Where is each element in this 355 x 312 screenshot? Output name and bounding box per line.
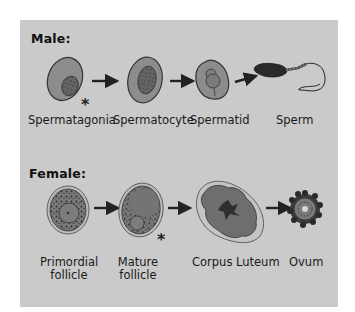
- spermatagonia-label: Spermatagonia: [28, 114, 116, 127]
- ovum-label: Ovum: [289, 256, 323, 269]
- primordial-follicle-label: Primordial follicle: [40, 256, 98, 282]
- ovum-icon: [287, 190, 323, 228]
- spermatagonia-marker-icon: *: [81, 97, 89, 113]
- spermatid-cell-icon: [196, 60, 229, 99]
- spermatid-label: Spermatid: [190, 114, 249, 127]
- spermatocyte-cell-icon: [124, 54, 167, 106]
- mature-follicle-label-line2: follicle: [116, 269, 160, 282]
- sperm-cell-icon: [254, 63, 325, 91]
- arrow-icon: [235, 76, 256, 82]
- sperm-label: Sperm: [276, 114, 313, 127]
- spermatocyte-label: Spermatocyte: [113, 114, 194, 127]
- mature-follicle-marker-icon: *: [157, 232, 165, 248]
- mature-follicle-label: Mature follicle: [116, 256, 160, 282]
- primordial-follicle-icon: [47, 186, 89, 234]
- corpus-luteum-icon: [196, 181, 263, 242]
- corpus-luteum-label: Corpus Luteum: [192, 256, 280, 269]
- primordial-follicle-label-line2: follicle: [40, 269, 98, 282]
